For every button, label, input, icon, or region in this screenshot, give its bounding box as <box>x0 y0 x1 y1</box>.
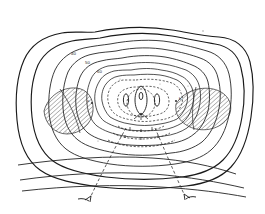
contour-label-40: 40 <box>71 51 76 56</box>
contour-label-50: 50 <box>85 60 90 65</box>
contour-diagram-canvas: 40 50 60 <box>0 0 265 214</box>
left-hatched-zone <box>40 82 100 140</box>
contour-ring-level-100 <box>108 79 183 121</box>
figure-root: 40 50 60 <box>0 0 265 214</box>
contour-ring-innermost <box>118 86 169 116</box>
right-hatched-zone <box>172 84 236 134</box>
core-dashed-boundary <box>127 89 155 117</box>
central-core-feature <box>123 86 159 120</box>
core-left-lobe <box>123 94 128 106</box>
contour-label-60: 60 <box>97 69 102 74</box>
contour-ring-level-90 <box>102 74 188 125</box>
